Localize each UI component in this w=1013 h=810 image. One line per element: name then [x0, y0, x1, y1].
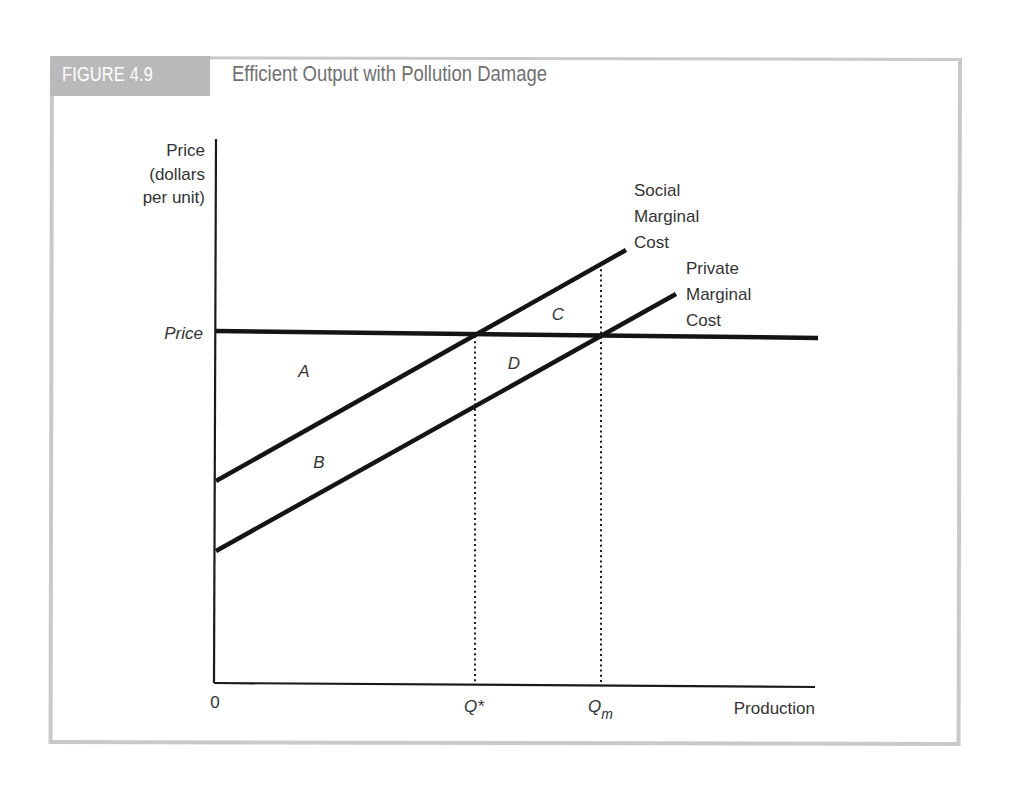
social-mc-label-line-2: Marginal — [634, 207, 699, 226]
q-star-label: Q* — [464, 697, 485, 716]
social-mc-label-line-1: Social — [634, 181, 680, 200]
y-axis-label-line-2: (dollars — [149, 165, 205, 184]
x-axis-label: Production — [734, 699, 815, 718]
x-axis — [214, 683, 815, 687]
price-line — [216, 331, 818, 338]
q-m-main: Q — [588, 697, 601, 716]
social-marginal-cost-line — [216, 250, 626, 481]
area-b-label: B — [313, 453, 324, 472]
y-axis-label-line-3: per unit) — [143, 188, 205, 207]
y-axis-label-line-1: Price — [166, 141, 205, 160]
price-tick-label: Price — [164, 324, 203, 343]
y-axis — [214, 139, 216, 683]
private-mc-label-line-3: Cost — [686, 311, 721, 330]
area-c-label: C — [552, 305, 565, 324]
origin-label: 0 — [210, 693, 219, 712]
area-a-label: A — [297, 362, 309, 381]
private-mc-label-line-1: Private — [686, 259, 739, 278]
private-mc-label-line-2: Marginal — [686, 285, 751, 304]
q-m-label: Qm — [588, 697, 613, 722]
chart: Price (dollars per unit) Price Social Ma… — [0, 0, 1013, 810]
q-m-subscript: m — [601, 706, 613, 722]
area-d-label: D — [508, 354, 520, 373]
social-mc-label-line-3: Cost — [634, 233, 669, 252]
